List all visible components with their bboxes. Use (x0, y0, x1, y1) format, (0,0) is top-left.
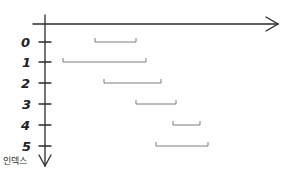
interval-bracket-4 (173, 121, 200, 125)
interval-bracket-3 (136, 100, 176, 104)
row-5: 5 (22, 139, 208, 154)
row-2: 2 (21, 76, 161, 91)
interval-bracket-5 (156, 142, 208, 146)
interval-bracket-2 (104, 79, 161, 83)
row-0: 0 (21, 35, 136, 50)
row-label-4: 4 (20, 118, 30, 133)
interval-diagram: 인덱스 0 1 2 3 4 5 (0, 0, 292, 192)
row-label-2: 2 (21, 76, 30, 91)
row-label-3: 3 (22, 97, 31, 112)
row-label-1: 1 (22, 55, 31, 70)
row-label-0: 0 (21, 35, 30, 50)
row-label-5: 5 (22, 139, 31, 154)
row-4: 4 (20, 118, 200, 133)
y-axis-title: 인덱스 (3, 156, 27, 166)
interval-bracket-0 (95, 38, 136, 42)
interval-bracket-1 (63, 58, 146, 62)
row-1: 1 (22, 55, 146, 70)
